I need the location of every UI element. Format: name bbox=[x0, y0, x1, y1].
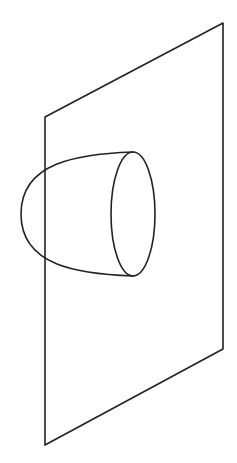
plane-cone-diagram bbox=[0, 0, 237, 463]
background bbox=[0, 0, 237, 463]
